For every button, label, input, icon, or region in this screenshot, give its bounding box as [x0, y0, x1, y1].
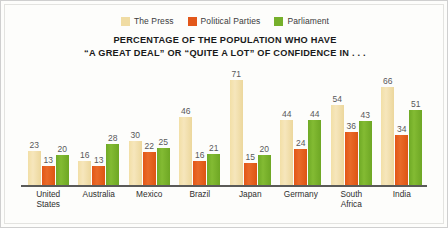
- bar-value-label: 25: [159, 137, 168, 147]
- bar: [258, 155, 271, 185]
- bar-group: 663451: [377, 63, 428, 185]
- bar-value-label: 22: [145, 141, 154, 151]
- bar-item: 46: [179, 63, 192, 185]
- bar-item: 36: [345, 63, 358, 185]
- bar-value-label: 16: [195, 150, 204, 160]
- bar-groups: 2313201613283022254616217115204424445436…: [23, 63, 427, 185]
- chart-title: PERCENTAGE OF THE POPULATION WHO HAVE“A …: [1, 34, 448, 59]
- bar-item: 16: [78, 63, 91, 185]
- bar-value-label: 30: [131, 130, 140, 140]
- bar: [381, 87, 394, 185]
- bar-value-label: 13: [44, 155, 53, 165]
- bar-item: 20: [258, 63, 271, 185]
- bar-item: 66: [381, 63, 394, 185]
- chart-legend: The PressPolitical PartiesParliament: [1, 16, 448, 26]
- bar: [28, 151, 41, 185]
- bar-group: 231320: [23, 63, 74, 185]
- chart-figure: The PressPolitical PartiesParliament PER…: [0, 0, 448, 228]
- category-label: Australia: [74, 189, 125, 209]
- bar-value-label: 54: [333, 94, 342, 104]
- plot-area: 2313201613283022254616217115204424445436…: [23, 63, 427, 185]
- bar: [345, 132, 358, 185]
- bar-item: 15: [244, 63, 257, 185]
- legend-item: Parliament: [274, 16, 329, 26]
- bar-value-label: 13: [94, 155, 103, 165]
- bar-group: 161328: [74, 63, 125, 185]
- bar-item: 20: [56, 63, 69, 185]
- legend-item: The Press: [121, 16, 174, 26]
- bar-item: 44: [308, 63, 321, 185]
- bar-item: 44: [280, 63, 293, 185]
- bar-value-label: 44: [310, 109, 319, 119]
- bar: [157, 148, 170, 185]
- bar-item: 23: [28, 63, 41, 185]
- bar-item: 22: [143, 63, 156, 185]
- bar: [179, 117, 192, 185]
- category-label: SouthAfrica: [326, 189, 377, 209]
- bar: [129, 141, 142, 185]
- bar-group: 711520: [225, 63, 276, 185]
- bar: [230, 80, 243, 185]
- category-label-line: Africa: [326, 199, 377, 209]
- bar: [409, 110, 422, 185]
- legend-item-label: Parliament: [287, 16, 329, 26]
- category-axis-labels: UnitedStatesAustraliaMexicoBrazilJapanGe…: [23, 189, 427, 209]
- bar-item: 51: [409, 63, 422, 185]
- category-label-line: South: [326, 189, 377, 199]
- bar-value-label: 71: [232, 69, 241, 79]
- category-label: UnitedStates: [23, 189, 74, 209]
- category-label-line: Japan: [225, 189, 276, 199]
- bar: [244, 163, 257, 185]
- bar-value-label: 66: [383, 76, 392, 86]
- bar: [92, 166, 105, 185]
- bar-group: 461621: [175, 63, 226, 185]
- category-label: Brazil: [175, 189, 226, 209]
- category-label: Mexico: [124, 189, 175, 209]
- bar: [193, 161, 206, 185]
- bar-item: 25: [157, 63, 170, 185]
- bar-group: 442444: [276, 63, 327, 185]
- category-label-line: Australia: [74, 189, 125, 199]
- category-label: Germany: [276, 189, 327, 209]
- bar-item: 21: [207, 63, 220, 185]
- chart-title-line: “A GREAT DEAL” OR “QUITE A LOT” OF CONFI…: [1, 47, 448, 60]
- bar-item: 28: [106, 63, 119, 185]
- category-label-line: United: [23, 189, 74, 199]
- bar-value-label: 16: [80, 150, 89, 160]
- bar-value-label: 51: [411, 99, 420, 109]
- bar-value-label: 20: [260, 144, 269, 154]
- bar-value-label: 20: [58, 144, 67, 154]
- bar-value-label: 28: [108, 133, 117, 143]
- bar-value-label: 24: [296, 138, 305, 148]
- bar-value-label: 21: [209, 143, 218, 153]
- legend-item-label: Political Parties: [201, 16, 261, 26]
- category-label-line: Brazil: [175, 189, 226, 199]
- bar: [42, 166, 55, 185]
- category-label-line: Germany: [276, 189, 327, 199]
- legend-swatch-icon: [188, 17, 197, 26]
- bar: [308, 120, 321, 185]
- bar-value-label: 46: [181, 106, 190, 116]
- category-label-line: India: [377, 189, 428, 199]
- category-label-line: States: [23, 199, 74, 209]
- bar-item: 13: [42, 63, 55, 185]
- bar: [143, 152, 156, 185]
- bar: [56, 155, 69, 185]
- bar-item: 16: [193, 63, 206, 185]
- category-label: Japan: [225, 189, 276, 209]
- bar: [280, 120, 293, 185]
- bar-group: 302225: [124, 63, 175, 185]
- bar-item: 13: [92, 63, 105, 185]
- bar: [359, 121, 372, 185]
- bar-item: 71: [230, 63, 243, 185]
- bar-value-label: 43: [361, 110, 370, 120]
- legend-swatch-icon: [274, 17, 283, 26]
- bar: [395, 135, 408, 185]
- x-axis-line: [21, 185, 427, 187]
- bar-value-label: 23: [30, 140, 39, 150]
- category-label: India: [377, 189, 428, 209]
- bar: [331, 105, 344, 185]
- legend-swatch-icon: [121, 17, 130, 26]
- legend-item-label: The Press: [134, 16, 174, 26]
- bar-value-label: 44: [282, 109, 291, 119]
